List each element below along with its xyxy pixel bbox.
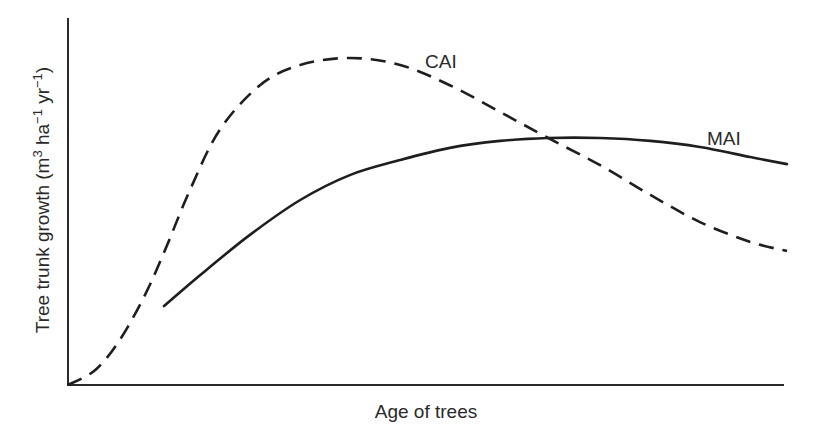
series-cai-line <box>68 58 787 385</box>
y-axis-label-sup-neg1-a: −1 <box>30 109 45 124</box>
y-axis-label: Tree trunk growth (m3 ha−1 yr−1) <box>30 67 53 333</box>
series-cai-label: CAI <box>425 51 457 72</box>
series-mai-label: MAI <box>707 128 741 149</box>
chart: CAI MAI Age of trees Tree trunk growth (… <box>0 0 816 445</box>
y-axis-label-sup-3: 3 <box>30 150 45 157</box>
y-axis-label-yr: yr <box>32 87 53 109</box>
y-axis-label-prefix: Tree trunk growth (m <box>32 158 53 334</box>
x-axis-label: Age of trees <box>375 401 477 422</box>
series-mai-line <box>164 138 787 306</box>
plot-area: CAI MAI <box>67 18 787 386</box>
y-axis-label-suffix: ) <box>32 67 53 73</box>
y-axis-label-sup-neg1-b: −1 <box>30 73 45 88</box>
y-axis-label-ha: ha <box>32 123 53 150</box>
